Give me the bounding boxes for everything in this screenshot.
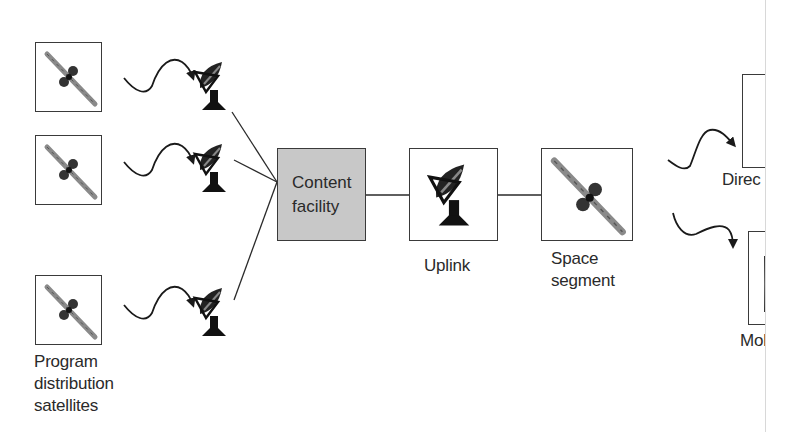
content-facility-box: Content facility (277, 148, 366, 241)
uplink-box (409, 148, 498, 241)
uplink-label: Uplink (424, 255, 470, 277)
content-facility-label: Content facility (278, 171, 365, 219)
signal-arrow-1 (124, 60, 193, 92)
connector-lines (0, 0, 802, 432)
satellite-dish-icon (426, 159, 482, 231)
satellite-dish-icon (192, 140, 236, 196)
satellite-icon (37, 44, 101, 110)
page-edge (765, 0, 802, 432)
space-segment-box (541, 148, 633, 241)
source-satellite-box-3 (35, 275, 102, 345)
direct-output-label: Direc (722, 169, 761, 191)
source-satellite-box-1 (35, 42, 102, 112)
source-satellite-box-2 (35, 135, 102, 205)
satellite-icon (37, 277, 101, 343)
satellite-icon (543, 150, 631, 240)
sources-label: Program distribution satellites (34, 351, 114, 417)
diagram-canvas: Program distribution satellites Content … (0, 0, 802, 432)
output-arrow-mobile (673, 213, 733, 246)
space-segment-label: Space segment (551, 248, 615, 292)
satellite-icon (37, 137, 101, 203)
satellite-dish-icon (192, 284, 236, 340)
satellite-dish-icon (192, 58, 236, 114)
signal-arrow-2 (124, 144, 193, 176)
signal-arrow-3 (124, 287, 193, 319)
output-arrow-direct (668, 130, 734, 169)
